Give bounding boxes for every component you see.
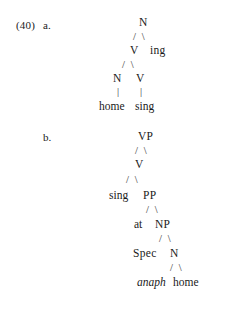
tree-b-branch-4: / \ — [159, 234, 172, 245]
tree-b-node-np: NP — [155, 219, 170, 231]
tree-a-terminal-home: home — [99, 101, 125, 113]
tree-b-terminal-at: at — [134, 219, 142, 231]
item-letter-a: a. — [43, 20, 51, 31]
tree-b-node-pp: PP — [143, 190, 156, 202]
tree-b-terminal-anaph: anaph — [137, 277, 166, 289]
tree-a-node-v: V — [130, 45, 139, 57]
tree-a-node-n: N — [113, 73, 122, 85]
tree-b-terminal-sing: sing — [109, 190, 128, 202]
item-letter-b: b. — [43, 132, 51, 143]
tree-b-branch-2: / \ — [126, 175, 139, 186]
tree-b-branch-3: / \ — [146, 205, 159, 216]
tree-b-branch-5: / \ — [170, 263, 183, 274]
tree-b-branch-1: / \ — [135, 146, 148, 157]
tree-a-terminal-sing: sing — [135, 101, 154, 113]
tree-a-node-v2: V — [136, 73, 145, 85]
tree-b-node-n: N — [170, 248, 179, 260]
tree-b-node-spec: Spec — [133, 248, 157, 260]
tree-a-node-root-n: N — [139, 17, 148, 29]
tree-a-node-ing: ing — [150, 45, 166, 57]
tree-b-node-v: V — [135, 159, 144, 171]
tree-a-branch-1: / \ — [133, 32, 146, 43]
tree-a-stem-right: | — [140, 87, 142, 98]
example-number: (40) — [16, 20, 35, 31]
document-page: (40) a. N / \ V ing / \ N V | | home sin… — [0, 0, 226, 309]
tree-b-terminal-home: home — [173, 277, 199, 289]
tree-b-node-root-vp: VP — [138, 131, 153, 143]
tree-a-branch-2: / \ — [122, 60, 135, 71]
tree-a-stem-left: | — [117, 87, 119, 98]
